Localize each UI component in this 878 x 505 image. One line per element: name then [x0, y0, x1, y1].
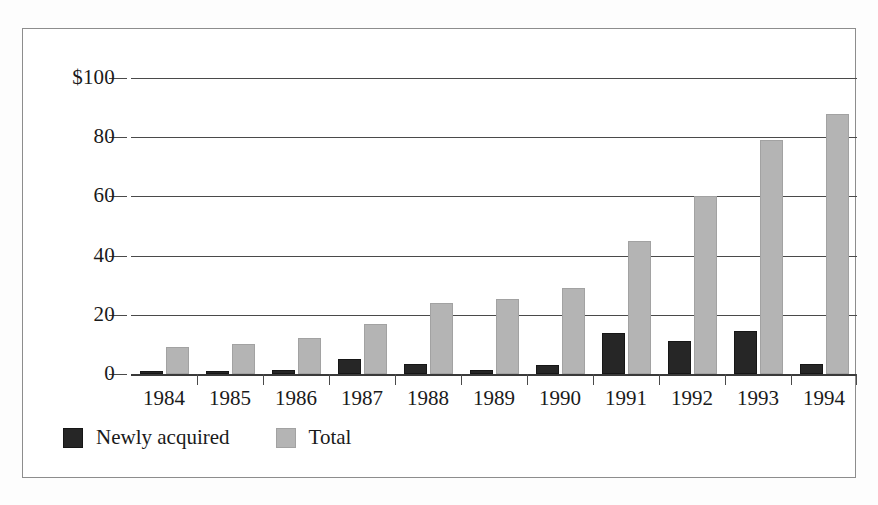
ytick-label-0: 0	[0, 363, 115, 384]
chart-frame: 020406080$100198419851986198719881989199…	[22, 28, 856, 478]
bar-total-1991[interactable]	[628, 241, 651, 374]
xtick-1992	[659, 374, 660, 385]
bar-newly-acquired-1992[interactable]	[668, 341, 691, 374]
bar-group-1986	[263, 78, 329, 374]
xtick-1986	[263, 374, 264, 385]
xtick-1994	[791, 374, 792, 385]
bar-total-1989[interactable]	[496, 299, 519, 374]
bar-total-1985[interactable]	[232, 344, 255, 374]
xtick-1988	[395, 374, 396, 385]
ytick-label-40: 40	[0, 245, 115, 266]
bar-group-1989	[461, 78, 527, 374]
gridline-0	[131, 374, 857, 376]
bar-group-1993	[725, 78, 791, 374]
bar-newly-acquired-1993[interactable]	[734, 331, 757, 374]
bar-newly-acquired-1986[interactable]	[272, 370, 295, 374]
bar-group-1992	[659, 78, 725, 374]
bar-group-1994	[791, 78, 857, 374]
xtick-label-1994: 1994	[791, 388, 857, 409]
chart-figure: 020406080$100198419851986198719881989199…	[0, 0, 878, 505]
ytick-label-20: 20	[0, 304, 115, 325]
ytick-label-60: 60	[0, 185, 115, 206]
xtick-1990	[527, 374, 528, 385]
xtick-label-1992: 1992	[659, 388, 725, 409]
xtick-label-1986: 1986	[263, 388, 329, 409]
bar-total-1988[interactable]	[430, 303, 453, 374]
xtick-label-1988: 1988	[395, 388, 461, 409]
bar-total-1987[interactable]	[364, 324, 387, 374]
legend-swatch-newly-acquired-icon	[63, 428, 83, 448]
legend-swatch-total-icon	[276, 428, 296, 448]
xtick-label-1990: 1990	[527, 388, 593, 409]
bar-newly-acquired-1988[interactable]	[404, 364, 427, 374]
bar-group-1987	[329, 78, 395, 374]
bar-group-1984	[131, 78, 197, 374]
xtick-1987	[329, 374, 330, 385]
bar-newly-acquired-1990[interactable]	[536, 365, 559, 374]
legend-entry-total[interactable]: Total	[276, 427, 352, 448]
xtick-1991	[593, 374, 594, 385]
bar-group-1990	[527, 78, 593, 374]
bar-total-1993[interactable]	[760, 140, 783, 374]
bar-total-1986[interactable]	[298, 338, 321, 374]
bar-total-1992[interactable]	[694, 196, 717, 374]
xtick-label-1984: 1984	[131, 388, 197, 409]
bar-group-1991	[593, 78, 659, 374]
plot-area: 020406080$100198419851986198719881989199…	[131, 78, 857, 374]
bar-group-1985	[197, 78, 263, 374]
legend-label-total: Total	[309, 427, 352, 448]
bar-group-1988	[395, 78, 461, 374]
xtick-1985	[197, 374, 198, 385]
bar-newly-acquired-1994[interactable]	[800, 364, 823, 374]
ytick-label-80: 80	[0, 126, 115, 147]
bar-newly-acquired-1991[interactable]	[602, 333, 625, 374]
xtick-1989	[461, 374, 462, 385]
bar-newly-acquired-1989[interactable]	[470, 370, 493, 374]
xtick-label-1993: 1993	[725, 388, 791, 409]
xtick-label-1989: 1989	[461, 388, 527, 409]
xtick-label-1985: 1985	[197, 388, 263, 409]
bar-total-1984[interactable]	[166, 347, 189, 374]
xtick-label-1991: 1991	[593, 388, 659, 409]
legend-label-newly-acquired: Newly acquired	[96, 427, 230, 448]
xtick-label-1987: 1987	[329, 388, 395, 409]
bar-total-1990[interactable]	[562, 288, 585, 374]
chart-legend: Newly acquired Total	[63, 427, 351, 448]
bar-total-1994[interactable]	[826, 114, 849, 374]
xtick-1993	[725, 374, 726, 385]
legend-entry-newly-acquired[interactable]: Newly acquired	[63, 427, 230, 448]
bar-newly-acquired-1987[interactable]	[338, 359, 361, 374]
xtick-end	[856, 374, 857, 385]
bar-newly-acquired-1985[interactable]	[206, 371, 229, 374]
bar-newly-acquired-1984[interactable]	[140, 371, 163, 374]
ytick-label-100: $100	[0, 67, 115, 88]
